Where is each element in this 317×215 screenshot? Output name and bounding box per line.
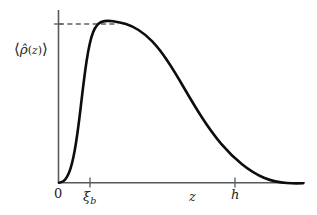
- figure-container: ⟨ρ̂(z)⟩ 0 ξb h z: [0, 0, 317, 215]
- rho-hat-symbol: ρ̂: [20, 41, 28, 57]
- xi-subscript-b: b: [90, 195, 96, 206]
- x-tick-label-zero: 0: [54, 187, 62, 200]
- y-axis-label: ⟨ρ̂(z)⟩: [14, 42, 48, 57]
- angle-bracket-close-icon: ⟩: [42, 40, 48, 58]
- x-tick-label-xi-b: ξb: [83, 190, 96, 206]
- density-profile-curve: [59, 21, 303, 183]
- plot-canvas: [0, 0, 317, 215]
- x-tick-label-h: h: [231, 188, 239, 201]
- x-axis-label: z: [189, 190, 196, 203]
